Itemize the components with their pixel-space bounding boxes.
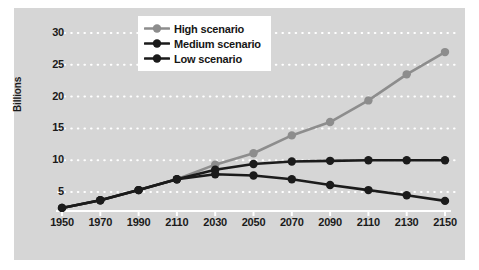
legend-label: High scenario (174, 23, 244, 35)
legend-item: High scenario (144, 21, 261, 36)
y-axis-title: Billions (12, 77, 23, 112)
legend-item: Low scenario (144, 51, 261, 66)
chart-panel: 51015202530 1950197019902110203020502070… (14, 8, 465, 260)
chart-figure: 51015202530 1950197019902110203020502070… (0, 0, 479, 270)
legend-swatch (144, 52, 170, 65)
legend-label: Low scenario (174, 53, 242, 65)
legend-swatch (144, 22, 170, 35)
x-axis-tick-label: 2150 (423, 216, 467, 228)
legend-label: Medium scenario (174, 38, 261, 50)
legend-item: Medium scenario (144, 36, 261, 51)
legend-swatch (144, 37, 170, 50)
chart-legend: High scenarioMedium scenarioLow scenario (138, 16, 271, 71)
